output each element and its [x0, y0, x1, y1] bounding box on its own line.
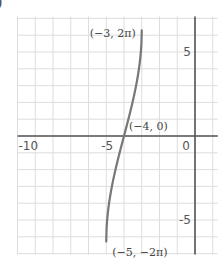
point-label: (−4, 0): [129, 120, 168, 133]
point-label: (−5, −2π): [112, 246, 167, 259]
y-tick-label: -5: [179, 213, 191, 227]
x-tick-label: 0: [182, 139, 190, 153]
x-tick-label: -5: [101, 139, 113, 153]
point-label: (−3, 2π): [90, 27, 136, 40]
x-tick-label: -10: [19, 139, 39, 153]
y-tick-label: 5: [183, 45, 191, 59]
plot-area: -10-505-5 (−3, 2π)(−4, 0)(−5, −2π): [0, 0, 224, 264]
